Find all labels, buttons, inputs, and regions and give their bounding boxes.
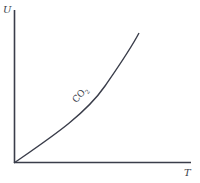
y-axis-label: U [3,4,11,15]
diagram-canvas [0,0,200,183]
internal-energy-vs-temperature-diagram: U T CO2 [0,0,200,183]
x-axis-label: T [184,167,191,178]
